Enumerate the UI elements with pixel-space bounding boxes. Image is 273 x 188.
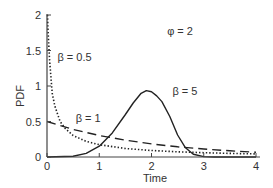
tick-labels: 0123400.511.52 (26, 9, 259, 172)
y-tick-label: 0 (35, 151, 41, 163)
annotation-label: β = 1 (76, 112, 101, 124)
annotations: φ = 2β = 0.5β = 5β = 1 (57, 25, 197, 124)
y-tick-label: 0.5 (26, 116, 41, 128)
x-axis-label: Time (143, 172, 167, 184)
weibull-pdf-chart: 0123400.511.52 Time PDF φ = 2β = 0.5β = … (0, 0, 273, 188)
y-tick-label: 2 (35, 9, 41, 21)
x-tick-label: 4 (253, 160, 259, 172)
x-tick-label: 0 (44, 160, 50, 172)
y-tick-label: 1 (35, 80, 41, 92)
x-tick-label: 1 (96, 160, 102, 172)
annotation-label: β = 0.5 (57, 51, 91, 63)
axes (47, 14, 260, 157)
annotation-label: β = 5 (172, 85, 197, 97)
series-line-2 (47, 91, 256, 157)
series-line-0 (48, 15, 257, 154)
annotation-label: φ = 2 (167, 25, 193, 37)
series-line-1 (47, 122, 256, 153)
y-tick-label: 1.5 (26, 45, 41, 57)
x-tick-label: 3 (201, 160, 207, 172)
x-tick-label: 2 (148, 160, 154, 172)
y-axis-label: PDF (14, 85, 26, 107)
plot-area (47, 15, 256, 157)
